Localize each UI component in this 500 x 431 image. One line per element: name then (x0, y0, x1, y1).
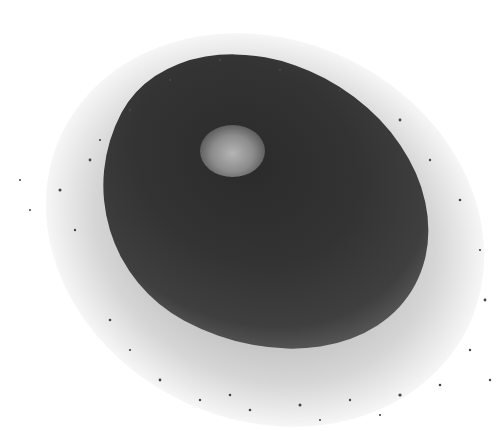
photo-scene (0, 0, 500, 426)
scattered-grains (0, 0, 500, 426)
